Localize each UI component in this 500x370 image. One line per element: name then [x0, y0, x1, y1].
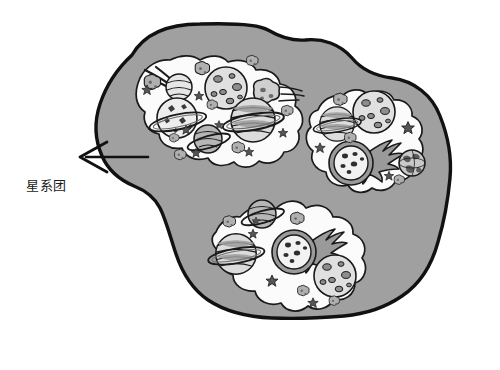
body-asteroid — [169, 133, 179, 142]
galaxy-supercluster-illustration: 星系团 — [0, 0, 500, 370]
body-asteroid — [223, 216, 236, 227]
body-asteroid — [345, 132, 357, 143]
body-asteroid — [282, 105, 294, 116]
cluster-label: 星系团 — [26, 178, 67, 193]
body-asteroid — [329, 296, 340, 306]
body-asteroid — [207, 100, 218, 110]
body-cratered-moon — [353, 91, 395, 133]
diagram-canvas: 星系团 — [0, 0, 500, 370]
body-asteroid — [394, 175, 405, 185]
body-asteroid — [298, 285, 310, 296]
body-asteroid — [195, 62, 209, 75]
body-earth-globe — [399, 150, 425, 176]
body-asteroid — [247, 55, 259, 66]
body-asteroid — [175, 149, 187, 160]
body-asteroid — [334, 93, 348, 105]
body-asteroid — [291, 212, 305, 224]
body-asteroid — [232, 142, 245, 153]
body-cratered-moon — [314, 255, 356, 297]
